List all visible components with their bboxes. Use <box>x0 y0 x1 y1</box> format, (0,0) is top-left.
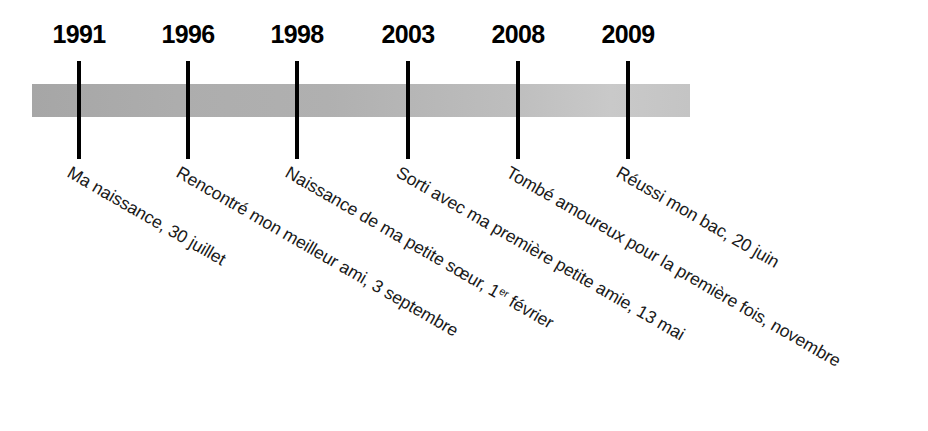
timeline-tick-line <box>186 61 190 159</box>
timeline-tick-line <box>295 61 299 159</box>
timeline-year-label: 2008 <box>491 22 544 47</box>
timeline-tick-line <box>516 61 520 159</box>
timeline-year-label: 1998 <box>270 22 323 47</box>
timeline-year-label: 2009 <box>601 22 654 47</box>
timeline-figure: 1991Ma naissance, 30 juillet1996Rencontr… <box>0 0 928 431</box>
timeline-year-label: 2003 <box>381 22 434 47</box>
timeline-year-label: 1996 <box>161 22 214 47</box>
timeline-tick-line <box>406 61 410 159</box>
timeline-year-label: 1991 <box>52 22 105 47</box>
timeline-band <box>32 84 690 117</box>
timeline-tick-line <box>77 61 81 159</box>
caption-text: Naissance de ma petite sœur, 1 <box>282 162 503 301</box>
caption-text-tail: février <box>502 289 558 333</box>
timeline-tick-line <box>626 61 630 159</box>
